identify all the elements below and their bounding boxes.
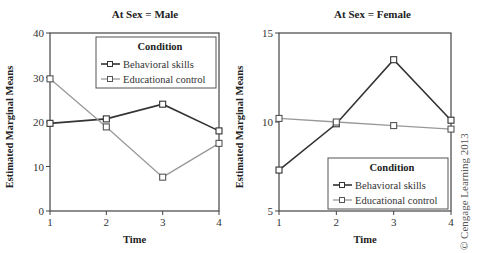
y-axis-title: Estimated Marginal Means — [4, 66, 15, 189]
y-tick-label: 0 — [39, 205, 45, 217]
x-axis-title: Time — [353, 234, 376, 245]
y-tick-label: 10 — [33, 161, 45, 173]
y-tick-label: 5 — [268, 205, 274, 217]
copyright-notice: © Cengage Learning 2013 — [458, 133, 470, 250]
data-point-marker — [47, 76, 53, 82]
y-tick-label: 40 — [33, 27, 45, 39]
y-tick-label: 10 — [262, 116, 274, 128]
y-tick-label: 15 — [262, 27, 274, 39]
plot-area: 510151234TimeEstimated Marginal MeansCon… — [240, 0, 477, 253]
data-point-marker — [448, 117, 454, 123]
legend-marker-icon — [108, 62, 113, 67]
x-tick-label: 4 — [216, 216, 222, 228]
data-point-marker — [391, 123, 397, 129]
y-tick-label: 20 — [33, 116, 45, 128]
y-axis-title: Estimated Marginal Means — [234, 66, 245, 189]
x-tick-label: 1 — [47, 216, 53, 228]
data-point-marker — [103, 116, 109, 122]
data-point-marker — [160, 101, 166, 107]
series-educational-control — [276, 115, 454, 132]
data-point-marker — [216, 140, 222, 146]
chart-male: At Sex = Male 0102030401234TimeEstimated… — [0, 0, 240, 253]
x-tick-label: 4 — [448, 216, 454, 228]
x-tick-label: 2 — [334, 216, 340, 228]
data-point-marker — [160, 174, 166, 180]
legend: ConditionBehavioral skillsEducational co… — [96, 37, 216, 88]
data-point-marker — [276, 167, 282, 173]
legend-marker-icon — [340, 198, 345, 203]
y-tick-label: 30 — [33, 72, 45, 84]
legend-entry-label: Educational control — [123, 74, 206, 85]
legend-title: Condition — [138, 41, 183, 52]
series-behavioral-skills — [47, 101, 222, 134]
data-point-marker — [448, 126, 454, 132]
data-point-marker — [103, 124, 109, 130]
data-point-marker — [216, 128, 222, 134]
legend-marker-icon — [108, 77, 113, 82]
data-point-marker — [333, 119, 339, 125]
data-point-marker — [391, 57, 397, 63]
x-axis-title: Time — [123, 234, 146, 245]
chart-female: At Sex = Female 510151234TimeEstimated M… — [240, 0, 477, 253]
series-educational-control — [47, 76, 222, 180]
x-tick-label: 3 — [160, 216, 166, 228]
x-tick-label: 1 — [276, 216, 282, 228]
data-point-marker — [276, 115, 282, 121]
series-behavioral-skills — [276, 57, 454, 173]
legend-title: Condition — [370, 162, 415, 173]
legend-entry-label: Behavioral skills — [355, 180, 426, 191]
plot-area: 0102030401234TimeEstimated Marginal Mean… — [0, 0, 240, 253]
data-point-marker — [47, 120, 53, 126]
x-tick-label: 2 — [104, 216, 110, 228]
legend: ConditionBehavioral skillsEducational co… — [328, 158, 448, 209]
legend-entry-label: Educational control — [355, 195, 438, 206]
legend-entry-label: Behavioral skills — [123, 59, 194, 70]
legend-marker-icon — [340, 183, 345, 188]
x-tick-label: 3 — [391, 216, 397, 228]
